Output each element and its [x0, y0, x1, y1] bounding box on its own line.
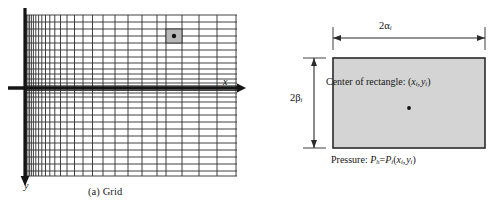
- height-dimension: [303, 58, 326, 148]
- grid-vertical-lines: [27, 15, 237, 176]
- grid-svg: [0, 0, 248, 211]
- grid-horizontal-lines: [25, 15, 237, 176]
- panel-rectangle: 2αi 2βi Center of rectangle: (xi, yi) Pr…: [248, 0, 496, 211]
- x-axis-label: x: [223, 76, 227, 87]
- width-dimension: [333, 27, 485, 50]
- width-dimension-sub: i: [390, 24, 392, 31]
- pressure-label-text: Pressure: [331, 154, 365, 165]
- pressure-label-separator: :: [365, 154, 368, 165]
- height-dimension-sub: i: [301, 96, 303, 103]
- width-dimension-label: 2αi: [379, 20, 392, 31]
- rectangle-center-dot: [407, 106, 411, 110]
- rectangle-center-label: Center of rectangle: (xi, yi): [326, 76, 431, 87]
- panel-grid: x y (a) Grid: [0, 0, 248, 211]
- caption-panel-a: (a) Grid: [88, 186, 122, 197]
- center-label-separator: :: [403, 76, 406, 87]
- height-dimension-value: 2β: [290, 92, 301, 103]
- x-axis-arrow: [237, 84, 246, 93]
- center-label-text: Center of rectangle: [326, 76, 403, 87]
- width-dimension-value: 2α: [379, 20, 390, 31]
- pressure-label: Pressure: Ph=Pi(xi, yi): [331, 154, 416, 165]
- figure-container: x y (a) Grid: [0, 0, 496, 211]
- marked-cell-dot: [172, 34, 176, 38]
- x-axis: [8, 84, 246, 93]
- y-axis-label: y: [24, 180, 28, 191]
- height-dimension-label: 2βi: [290, 92, 302, 103]
- ith-rectangle-shape: [333, 58, 485, 148]
- rectangle-svg: [248, 0, 496, 211]
